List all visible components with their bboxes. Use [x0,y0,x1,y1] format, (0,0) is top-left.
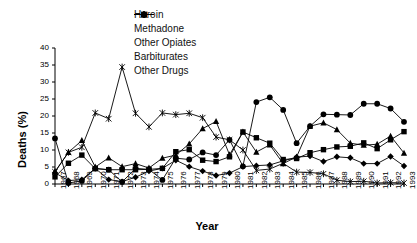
x-tick-label: 1982 [260,171,269,189]
y-tick-label: 10 [33,145,49,154]
x-tick-label: 1986 [314,171,323,189]
y-tick-label: 25 [33,94,49,103]
x-tick-label: 1992 [394,171,403,189]
x-tick-label: 1983 [273,171,282,189]
y-tick-label: 30 [33,77,49,86]
x-tick-label: 1970 [99,171,108,189]
y-tick-label: 0 [33,179,49,188]
x-tick-label: 1967 [59,171,68,189]
x-tick-label: 1969 [85,171,94,189]
x-tick-label: 1985 [300,171,309,189]
x-tick-label: 1973 [139,171,148,189]
y-tick-label: 15 [33,128,49,137]
x-tick-label: 1989 [354,171,363,189]
x-tick-label: 1980 [233,171,242,189]
x-tick-label: 1975 [166,171,175,189]
x-tick-label: 1990 [367,171,376,189]
series-other-opiates [52,118,407,174]
x-tick-label: 1987 [327,171,336,189]
x-tick-label: 1977 [193,171,202,189]
x-tick-label: 1968 [72,171,81,189]
x-tick-label: 1981 [246,171,255,189]
x-tick-label: 1974 [152,171,161,189]
y-tick-label: 5 [33,162,49,171]
x-tick-label: 1972 [126,171,135,189]
x-tick-label: 1978 [206,171,215,189]
x-tick-label: 1988 [340,171,349,189]
x-tick-label: 1979 [220,171,229,189]
y-tick-label: 35 [33,60,49,69]
x-tick-label: 1984 [287,171,296,189]
x-tick-label: 1976 [179,171,188,189]
x-tick-label: 1993 [408,171,417,189]
x-tick-label: 1991 [381,171,390,189]
y-tick-label: 40 [33,43,49,52]
x-tick-label: 1971 [112,171,121,189]
series-barbiturates [52,64,407,187]
y-tick-label: 20 [33,111,49,120]
